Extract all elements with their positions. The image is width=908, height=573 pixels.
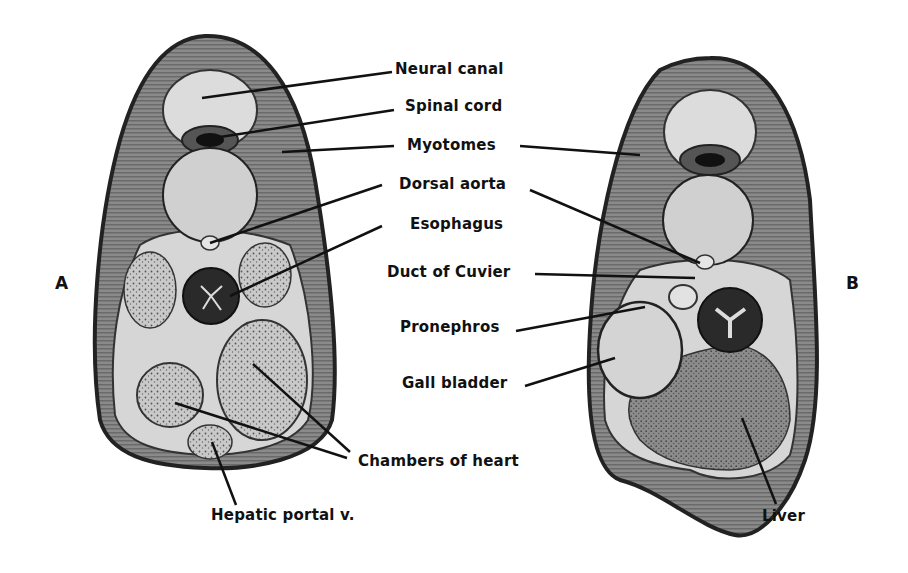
notochord-b bbox=[663, 175, 753, 265]
spinal-cord-center-b bbox=[695, 153, 725, 167]
section-b bbox=[589, 58, 817, 536]
label-dorsal-aorta: Dorsal aorta bbox=[399, 175, 506, 193]
label-myotomes: Myotomes bbox=[407, 136, 496, 154]
notochord-a bbox=[163, 148, 257, 242]
label-esophagus: Esophagus bbox=[410, 215, 503, 233]
spinal-cord-center-a bbox=[196, 133, 224, 147]
label-gall-bladder: Gall bladder bbox=[402, 374, 507, 392]
panel-label-a: A bbox=[55, 273, 68, 293]
section-a bbox=[95, 36, 335, 468]
pronephros-left-a bbox=[124, 252, 176, 328]
label-duct-of-cuvier: Duct of Cuvier bbox=[387, 263, 510, 281]
label-liver: Liver bbox=[762, 507, 805, 525]
label-hepatic-portal-vein: Hepatic portal v. bbox=[211, 506, 355, 524]
gall-bladder-b bbox=[598, 302, 682, 398]
label-neural-canal: Neural canal bbox=[395, 60, 504, 78]
pronephros-right-a bbox=[239, 243, 291, 307]
hepatic-portal-vein-a bbox=[188, 425, 232, 459]
heart-chamber-small-a bbox=[137, 363, 203, 427]
label-spinal-cord: Spinal cord bbox=[405, 97, 502, 115]
panel-label-b: B bbox=[846, 273, 859, 293]
diagram-canvas bbox=[0, 0, 908, 573]
label-chambers-of-heart: Chambers of heart bbox=[358, 452, 519, 470]
label-pronephros: Pronephros bbox=[400, 318, 500, 336]
pronephros-b bbox=[669, 285, 697, 309]
